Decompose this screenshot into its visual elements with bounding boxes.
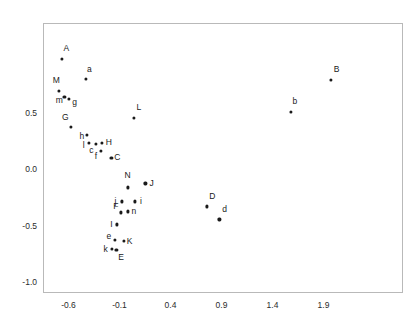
x-axis-tick-label: -0.6 [61, 300, 76, 310]
x-axis-tick-label: 1.9 [318, 300, 330, 310]
y-axis-tick-label: -1.0 [22, 277, 37, 287]
x-axis-tick-label: 0.9 [216, 300, 228, 310]
y-axis-tick-label: 0.0 [25, 164, 37, 174]
x-axis-tick-label: -0.1 [112, 300, 127, 310]
y-axis-tick-label: -0.5 [22, 221, 37, 231]
x-axis-tick-label: 1.4 [267, 300, 279, 310]
scatter-plot-figure: 0.50.0-0.5-1.0-0.6-0.10.40.91.41.9AaMmgB… [0, 0, 417, 329]
y-axis-tick-label: 0.5 [25, 108, 37, 118]
x-axis-tick-label: 0.4 [165, 300, 177, 310]
plot-frame [43, 23, 403, 293]
